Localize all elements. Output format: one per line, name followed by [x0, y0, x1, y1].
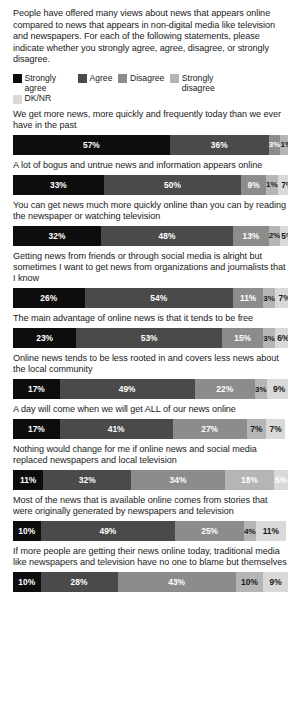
bar-segment[interactable]: 11%	[233, 288, 263, 308]
bar-segment[interactable]: 9%	[241, 175, 266, 195]
stacked-bar: 32%48%13%2%5%	[13, 226, 288, 246]
legend-item[interactable]: Strongly disagree	[170, 73, 240, 93]
bar-segment-value: 9%	[270, 577, 282, 587]
statement-label: A lot of bogus and untrue news and infor…	[13, 160, 288, 171]
bar-segment-value: 11%	[263, 526, 279, 536]
bar-segment[interactable]: 41%	[60, 419, 173, 439]
bar-segment-value: 48%	[159, 231, 176, 241]
legend-item-label: DK/NR	[25, 93, 52, 103]
bar-segment[interactable]: 49%	[60, 379, 195, 399]
bar-segment[interactable]: 54%	[85, 288, 234, 308]
bar-segment[interactable]: 13%	[233, 226, 269, 246]
stacked-bar: 33%50%9%1%7%	[13, 175, 288, 195]
bar-segment[interactable]: 11%	[256, 521, 286, 541]
legend-item[interactable]: Strongly agree	[13, 73, 71, 93]
bar-segment-value: 10%	[18, 526, 35, 536]
legend-item-label: Strongly agree	[25, 73, 72, 93]
bar-segment[interactable]: 34%	[131, 470, 225, 490]
bar-segment[interactable]: 1%	[266, 175, 278, 195]
bar-segment[interactable]: 7%	[278, 175, 288, 195]
bar-segment[interactable]: 49%	[41, 521, 176, 541]
bar-segment[interactable]: 26%	[13, 288, 85, 308]
bar-segment[interactable]: 10%	[13, 572, 41, 592]
bar-segment[interactable]: 5%	[274, 470, 288, 490]
legend-item-label: Agree	[90, 73, 113, 83]
legend-item[interactable]: Agree	[78, 73, 112, 84]
legend-item[interactable]: DK/NR	[13, 93, 51, 104]
bar-segment[interactable]: 1%	[280, 135, 288, 155]
bar-row: If more people are getting their news on…	[13, 546, 288, 592]
chart-legend: Strongly agreeAgreeDisagreeStrongly disa…	[13, 73, 288, 104]
bar-segment-value: 15%	[234, 333, 251, 343]
bar-row: Nothing would change for me if online ne…	[13, 444, 288, 490]
bar-segment-value: 7%	[281, 180, 288, 190]
bar-segment[interactable]: 3%	[269, 135, 281, 155]
legend-swatch-icon	[118, 74, 127, 83]
bar-row: A lot of bogus and untrue news and infor…	[13, 160, 288, 195]
bar-segment[interactable]: 23%	[13, 328, 76, 348]
bar-segment[interactable]: 15%	[222, 328, 263, 348]
bar-segment[interactable]: 4%	[244, 521, 256, 541]
bar-segment[interactable]: 18%	[225, 470, 275, 490]
bar-segment[interactable]: 3%	[263, 328, 275, 348]
bar-segment[interactable]: 50%	[104, 175, 242, 195]
intro-text: People have offered many views about new…	[13, 8, 288, 66]
bar-segment[interactable]: 7%	[266, 419, 285, 439]
bar-segment-value: 11%	[240, 293, 256, 303]
bar-segment-value: 22%	[216, 384, 233, 394]
legend-item[interactable]: Disagree	[118, 73, 164, 84]
bar-segment[interactable]: 3%	[263, 288, 275, 308]
bar-segment-value: 1%	[266, 180, 278, 189]
legend-swatch-icon	[13, 74, 22, 83]
bar-segment[interactable]: 32%	[43, 470, 131, 490]
stacked-bar: 11%32%34%18%5%	[13, 470, 288, 490]
bar-segment[interactable]: 6%	[275, 328, 288, 348]
bar-segment-value: 41%	[108, 424, 125, 434]
bar-segment[interactable]: 22%	[195, 379, 256, 399]
bar-segment[interactable]: 10%	[236, 572, 264, 592]
chart-page: People have offered many views about new…	[0, 0, 300, 712]
bar-segment[interactable]: 9%	[263, 572, 288, 592]
bar-segment-value: 7%	[279, 293, 288, 303]
bar-segment[interactable]: 17%	[13, 379, 60, 399]
bar-segment[interactable]: 7%	[275, 288, 288, 308]
bar-segment-value: 7%	[270, 424, 282, 434]
bar-segment[interactable]: 48%	[101, 226, 233, 246]
bar-segment[interactable]: 32%	[13, 226, 101, 246]
bar-segment-value: 53%	[141, 333, 158, 343]
bar-segment[interactable]: 57%	[13, 135, 170, 155]
bar-segment-value: 26%	[40, 293, 57, 303]
bar-segment[interactable]: 36%	[170, 135, 269, 155]
bar-segment[interactable]: 9%	[267, 379, 288, 399]
bar-segment-value: 54%	[150, 293, 167, 303]
bar-segment[interactable]: 28%	[41, 572, 118, 592]
bar-row: Most of the news that is available onlin…	[13, 495, 288, 541]
bar-segment[interactable]: 25%	[175, 521, 244, 541]
bar-segment[interactable]: 5%	[280, 226, 288, 246]
bar-segment-value: 25%	[201, 526, 218, 536]
bar-segment-value: 57%	[83, 140, 100, 150]
bar-segment[interactable]: 7%	[247, 419, 266, 439]
bar-segment[interactable]: 10%	[13, 521, 41, 541]
statement-label: The main advantage of online news is tha…	[13, 313, 288, 324]
bar-segment[interactable]: 3%	[255, 379, 267, 399]
bar-segment-value: 10%	[241, 577, 258, 587]
bar-segment-value: 33%	[50, 180, 67, 190]
bar-segment-value: 32%	[79, 475, 96, 485]
bar-segment[interactable]: 17%	[13, 419, 60, 439]
statement-label: Online news tends to be less rooted in a…	[13, 353, 288, 376]
bar-segment-value: 18%	[241, 475, 258, 485]
legend-item-label: Disagree	[130, 73, 164, 83]
bar-segment[interactable]: 53%	[76, 328, 222, 348]
bar-segment[interactable]: 27%	[173, 419, 247, 439]
bar-segment-value: 11%	[20, 475, 36, 485]
bar-segment-value: 9%	[248, 180, 260, 190]
legend-swatch-icon	[170, 74, 179, 83]
bar-segment-value: 6%	[277, 333, 288, 343]
bar-segment[interactable]: 2%	[269, 226, 281, 246]
bar-segment[interactable]: 43%	[118, 572, 236, 592]
bar-segment[interactable]: 33%	[13, 175, 104, 195]
bar-segment[interactable]: 11%	[13, 470, 43, 490]
stacked-bar: 23%53%15%3%6%	[13, 328, 288, 348]
bar-segment-value: 3%	[263, 334, 275, 343]
